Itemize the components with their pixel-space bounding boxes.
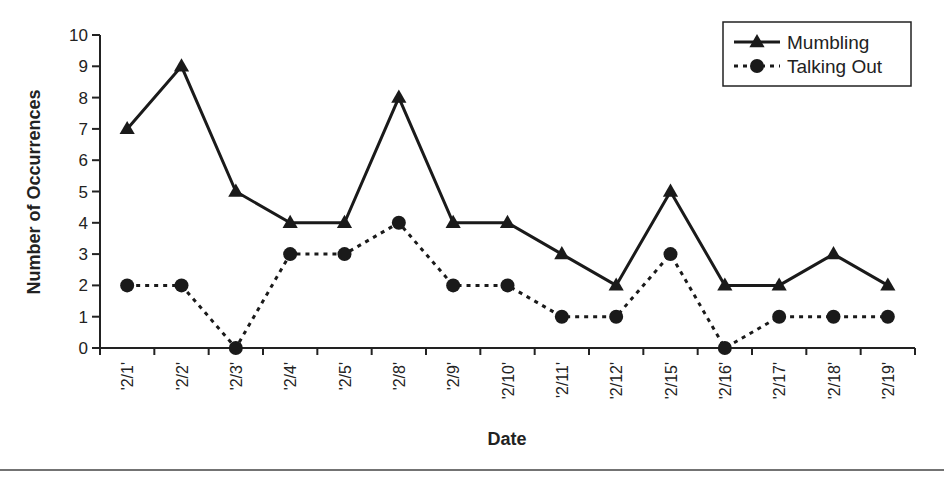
y-axis-label: Number of Occurrences bbox=[24, 89, 44, 294]
triangle-marker bbox=[228, 184, 243, 197]
y-tick-label: 0 bbox=[79, 339, 88, 358]
triangle-marker bbox=[826, 246, 841, 259]
y-tick-label: 9 bbox=[79, 57, 88, 76]
x-axis-label: Date bbox=[487, 429, 526, 449]
y-tick-label: 8 bbox=[79, 89, 88, 108]
x-tick-label: '2/18' bbox=[826, 362, 843, 399]
y-tick-label: 3 bbox=[79, 245, 88, 264]
circle-marker bbox=[338, 247, 352, 261]
x-tick-label: '2/2' bbox=[174, 362, 191, 390]
circle-marker bbox=[175, 278, 189, 292]
circle-marker bbox=[881, 310, 895, 324]
y-tick-label: 6 bbox=[79, 151, 88, 170]
circle-marker bbox=[283, 247, 297, 261]
y-tick-label: 1 bbox=[79, 308, 88, 327]
circle-marker bbox=[120, 278, 134, 292]
circle-marker bbox=[446, 278, 460, 292]
y-tick-label: 7 bbox=[79, 120, 88, 139]
circle-marker bbox=[229, 341, 243, 355]
circle-marker bbox=[501, 278, 515, 292]
x-tick-label: '2/12' bbox=[608, 362, 625, 399]
x-tick-label: '2/19' bbox=[880, 362, 897, 399]
x-tick-label: '2/11' bbox=[554, 362, 571, 398]
y-tick-label: 5 bbox=[79, 183, 88, 202]
y-tick-label: 2 bbox=[79, 276, 88, 295]
series-line bbox=[127, 66, 888, 285]
x-tick-label: '2/4' bbox=[282, 362, 299, 390]
legend: MumblingTalking Out bbox=[723, 22, 911, 86]
legend-label: Talking Out bbox=[787, 56, 883, 77]
x-tick-label: '2/8' bbox=[391, 362, 408, 390]
circle-marker bbox=[827, 310, 841, 324]
circle-marker bbox=[772, 310, 786, 324]
series-lines bbox=[120, 58, 896, 355]
x-tick-label: '2/10' bbox=[500, 362, 517, 399]
legend-label: Mumbling bbox=[787, 32, 869, 53]
circle-marker bbox=[609, 310, 623, 324]
y-axis: 012345678910 bbox=[69, 26, 100, 358]
circle-marker bbox=[718, 341, 732, 355]
x-tick-label: '2/1' bbox=[119, 362, 136, 390]
triangle-marker bbox=[174, 58, 189, 71]
circle-marker bbox=[555, 310, 569, 324]
x-tick-label: '2/3' bbox=[228, 362, 245, 390]
series-mumbling bbox=[120, 58, 896, 290]
x-tick-label: '2/16' bbox=[717, 362, 734, 399]
circle-marker bbox=[392, 216, 406, 230]
x-axis: '2/1''2/2''2/3''2/4''2/5''2/8''2/9''2/10… bbox=[92, 348, 915, 399]
x-tick-label: '2/9' bbox=[445, 362, 462, 390]
circle-icon bbox=[750, 59, 764, 73]
line-chart: 012345678910 '2/1''2/2''2/3''2/4''2/5''2… bbox=[0, 0, 944, 480]
x-tick-label: '2/5' bbox=[337, 362, 354, 390]
x-tick-label: '2/15' bbox=[663, 362, 680, 399]
y-tick-label: 4 bbox=[79, 214, 88, 233]
triangle-marker bbox=[663, 184, 678, 197]
y-tick-label: 10 bbox=[69, 26, 88, 45]
x-tick-label: '2/17' bbox=[771, 362, 788, 399]
circle-marker bbox=[664, 247, 678, 261]
triangle-marker bbox=[391, 90, 406, 103]
